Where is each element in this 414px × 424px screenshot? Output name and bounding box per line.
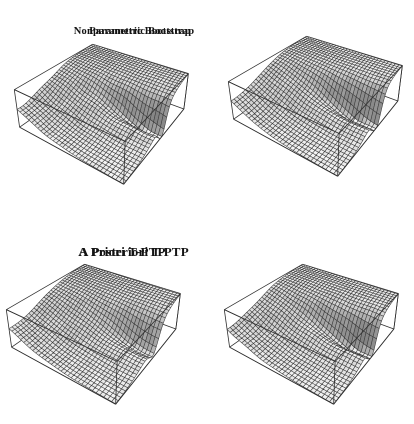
subplot-a-posteriori-t-ptp [207,212,414,424]
surface-plot-canvas-parametric-bootstrap [207,0,414,212]
subplot-parametric-bootstrap [207,0,414,212]
subplot-title-a-posteriori-t-ptp: A Posteriori T-PTP [79,244,189,260]
surface-plot-canvas-a-posteriori-t-ptp [207,212,414,424]
figure-panel: Nonparametric Bootstrap Parametric Boots… [0,0,414,424]
subplot-title-parametric-bootstrap: Parametric Bootstrap [89,25,191,36]
